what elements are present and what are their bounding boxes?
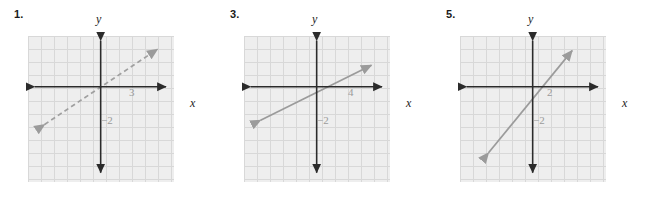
y-intercept-label: −2 — [533, 114, 545, 126]
problem-number: 3. — [230, 8, 240, 20]
axes — [35, 41, 166, 173]
x-axis-label: x — [622, 96, 627, 111]
plot-layer-3 — [244, 36, 390, 182]
axes — [251, 41, 382, 173]
x-intercept-label: 3 — [129, 86, 135, 98]
coordinate-graph-5: y x 2 −2 — [460, 36, 606, 182]
plot-layer-5 — [460, 36, 606, 182]
problem-number: 1. — [14, 8, 24, 20]
x-axis-label: x — [190, 96, 195, 111]
x-intercept-label: 2 — [547, 86, 553, 98]
plot-layer-1 — [28, 36, 174, 182]
axes — [467, 41, 598, 173]
y-intercept-label: −2 — [101, 114, 113, 126]
y-intercept-label: −2 — [317, 114, 329, 126]
x-intercept-label: 4 — [348, 86, 354, 98]
coordinate-graph-1: y x 3 −2 — [28, 36, 174, 182]
y-axis-label: y — [528, 12, 533, 27]
x-axis-label: x — [406, 96, 411, 111]
y-axis-label: y — [96, 12, 101, 27]
worksheet-page: 1. — [0, 0, 648, 206]
coordinate-graph-3: y x 4 −2 — [244, 36, 390, 182]
problem-number: 5. — [446, 8, 456, 20]
y-axis-label: y — [312, 12, 317, 27]
plotted-line — [489, 51, 573, 153]
problem-3: 3. — [216, 0, 432, 206]
problem-5: 5. — [432, 0, 648, 206]
problem-1: 1. — [0, 0, 216, 206]
